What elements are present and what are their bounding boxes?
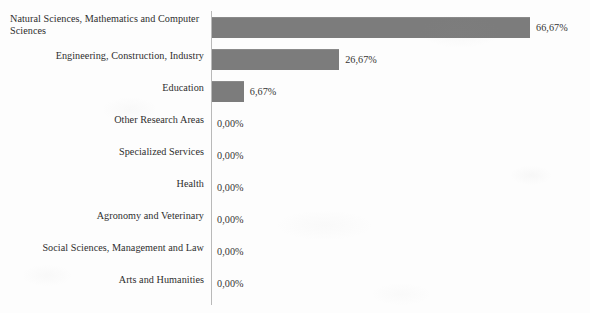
category-label: Health [8,178,204,190]
value-label: 0,00% [217,150,244,162]
value-label: 26,67% [345,54,377,66]
category-label: Natural Sciences, Mathematics and Comput… [10,13,206,38]
chart-row: Other Research Areas0,00% [0,110,590,142]
category-label: Education [8,82,204,94]
chart-row: Arts and Humanities0,00% [0,270,590,302]
chart-row: Social Sciences, Management and Law0,00% [0,238,590,270]
value-label: 0,00% [217,246,244,258]
category-label: Other Research Areas [8,114,204,126]
chart-row: Specialized Services0,00% [0,142,590,174]
value-label: 0,00% [217,118,244,130]
bar [212,17,530,38]
category-label: Specialized Services [8,146,204,158]
chart-row: Health0,00% [0,174,590,206]
value-label: 6,67% [250,86,277,98]
category-label: Agronomy and Veterinary [8,210,204,222]
chart-row: Agronomy and Veterinary0,00% [0,206,590,238]
value-label: 0,00% [217,182,244,194]
value-label: 66,67% [536,22,568,34]
plot-area: Natural Sciences, Mathematics and Comput… [0,0,590,313]
chart-row: Engineering, Construction, Industry26,67… [0,46,590,78]
category-label: Social Sciences, Management and Law [8,242,204,254]
bar [212,49,339,70]
chart-row: Natural Sciences, Mathematics and Comput… [0,14,590,46]
value-label: 0,00% [217,278,244,290]
value-label: 0,00% [217,214,244,226]
chart-row: Education6,67% [0,78,590,110]
category-label: Arts and Humanities [8,274,204,286]
bar-chart: Natural Sciences, Mathematics and Comput… [0,0,590,313]
bar [212,81,244,102]
category-label: Engineering, Construction, Industry [8,50,204,62]
